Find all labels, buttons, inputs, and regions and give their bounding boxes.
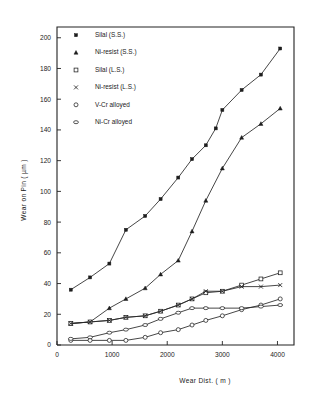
data-point-filled-square (75, 34, 78, 37)
y-axis-title: Wear on Pin ( µm ) (20, 159, 28, 221)
data-point-filled-square (89, 276, 92, 279)
wear-chart-figure: 020406080100120140160180200 010002000300… (0, 0, 315, 402)
x-axis-title: Wear Dist. ( m ) (179, 377, 231, 385)
data-point-open-circle (190, 323, 194, 327)
x-tick-label: 3000 (215, 351, 230, 358)
data-point-filled-square (240, 88, 243, 91)
x-tick-label: 1000 (105, 351, 120, 358)
data-point-filled-square (279, 47, 282, 50)
data-point-open-lens (107, 331, 112, 334)
chart-canvas: 020406080100120140160180200 010002000300… (0, 0, 315, 402)
y-tick-label: 100 (40, 188, 51, 195)
data-point-filled-square (191, 158, 194, 161)
data-point-filled-square (144, 214, 147, 217)
y-tick-label: 120 (40, 157, 51, 164)
legend-item-label: Ni-resist (S.S.) (95, 48, 137, 56)
data-point-filled-square (259, 73, 262, 76)
data-point-open-circle (74, 103, 78, 107)
legend-item-label: V-Cr alloyed (95, 101, 130, 109)
legend-item-label: Ni-resist (L.S.) (95, 83, 136, 91)
data-point-open-circle (220, 314, 224, 318)
data-point-open-circle (143, 335, 147, 339)
data-point-open-circle (176, 328, 180, 332)
data-point-open-circle (107, 338, 111, 342)
x-tick-label: 0 (55, 351, 59, 358)
data-point-open-circle (204, 318, 208, 322)
y-tick-label: 200 (40, 34, 51, 41)
data-point-open-lens (239, 307, 244, 310)
y-tick-label: 60 (44, 249, 52, 256)
data-point-open-circle (159, 331, 163, 335)
data-point-open-circle (124, 338, 128, 342)
data-point-open-square (259, 277, 263, 281)
data-point-filled-square (108, 262, 111, 265)
x-tick-label: 2000 (160, 351, 175, 358)
data-point-open-lens (68, 337, 73, 340)
data-point-open-square (74, 68, 78, 72)
data-point-open-lens (88, 336, 93, 339)
y-tick-label: 160 (40, 96, 51, 103)
data-point-open-lens (158, 317, 163, 320)
y-tick-label: 180 (40, 65, 51, 72)
data-point-open-lens (123, 328, 128, 331)
x-tick-label: 4000 (270, 351, 285, 358)
data-point-open-lens (278, 304, 283, 307)
data-point-open-lens (143, 324, 148, 327)
data-point-filled-square (159, 198, 162, 201)
y-tick-label: 80 (44, 219, 52, 226)
data-point-filled-square (124, 228, 127, 231)
data-point-open-lens (190, 307, 195, 310)
y-tick-label: 0 (47, 341, 51, 348)
data-point-filled-square (204, 144, 207, 147)
y-tick-label: 140 (40, 126, 51, 133)
data-point-open-lens (74, 121, 79, 124)
data-point-filled-square (69, 288, 72, 291)
data-point-open-lens (176, 311, 181, 314)
data-point-filled-square (214, 127, 217, 130)
data-point-open-lens (203, 307, 208, 310)
y-tick-label: 40 (44, 280, 52, 287)
data-point-open-lens (259, 305, 264, 308)
y-tick-label: 20 (44, 311, 52, 318)
legend-item-label: Silal (L.S.) (95, 66, 124, 74)
legend-item-label: Silal (S.S.) (95, 31, 125, 39)
data-point-open-square (278, 271, 282, 275)
data-point-filled-square (221, 108, 224, 111)
data-point-filled-square (177, 176, 180, 179)
legend-item-label: Ni-Cr alloyed (95, 118, 132, 126)
data-point-open-lens (220, 307, 225, 310)
data-point-open-circle (278, 297, 282, 301)
